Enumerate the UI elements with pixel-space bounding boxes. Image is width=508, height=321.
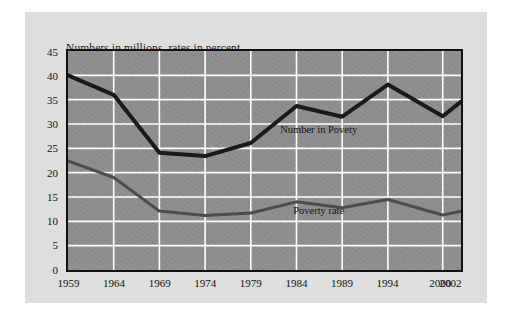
x-tick-label: 1969	[149, 277, 171, 289]
x-axis: 1959196419691974197919841989199420002002	[66, 275, 463, 297]
x-tick-label: 2002	[440, 277, 462, 289]
y-tick-label: 30	[47, 118, 58, 130]
x-tick-label: 1979	[240, 277, 262, 289]
x-tick-label: 1989	[331, 277, 353, 289]
x-tick-label: 1994	[377, 277, 399, 289]
series-lines	[68, 51, 461, 270]
x-tick-label: 1984	[285, 277, 307, 289]
y-tick-label: 0	[53, 264, 59, 276]
series-line-0	[68, 75, 461, 156]
y-tick-label: 25	[47, 142, 58, 154]
y-axis: 454035302520151050	[25, 49, 63, 272]
figure-card: Numbers in millions, rates in percent 45…	[25, 12, 487, 303]
x-tick-label: 1964	[103, 277, 125, 289]
y-tick-label: 10	[47, 215, 58, 227]
y-tick-label: 20	[47, 167, 58, 179]
plot-inner: Number in PovetyPoverty rate	[68, 51, 461, 270]
plot-area: Number in PovetyPoverty rate	[66, 49, 463, 272]
y-tick-label: 45	[47, 46, 58, 58]
y-tick-label: 5	[53, 239, 59, 251]
series-line-1	[68, 161, 461, 216]
y-tick-label: 40	[47, 70, 58, 82]
y-tick-label: 35	[47, 94, 58, 106]
x-tick-label: 1959	[58, 277, 80, 289]
y-tick-label: 15	[47, 191, 58, 203]
x-tick-label: 1974	[194, 277, 216, 289]
